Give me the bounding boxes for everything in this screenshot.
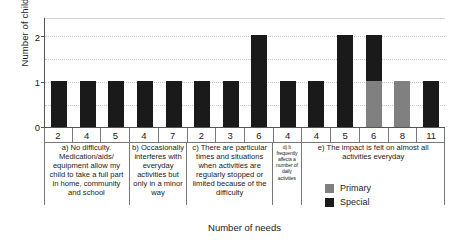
y-tick-label-0: 0: [0, 123, 40, 133]
legend-label-special: Special: [340, 197, 370, 207]
bar-group-10: [331, 18, 360, 127]
x-tick-7: 6: [245, 128, 274, 142]
x-tick-12: 8: [389, 128, 418, 142]
bar-special: [366, 35, 382, 81]
bar-chart: Number of children: [0, 0, 457, 243]
bar-special: [280, 81, 296, 127]
category-label-a: a) No difficulty. Medication/aids/ equip…: [44, 143, 130, 205]
legend-item-special: Special: [325, 197, 371, 207]
plot-area: [44, 18, 445, 128]
bar-group-4: [159, 18, 188, 127]
bar-special: [423, 81, 439, 127]
x-tick-value-row: 2 4 5 4 7 2 3 6 4 4 5 6 8 11: [44, 128, 445, 143]
bar-group-13: [417, 18, 446, 127]
bar-special: [194, 81, 210, 127]
bar-special: [108, 81, 124, 127]
legend-swatch-primary-icon: [325, 184, 334, 193]
bar-group-0: [45, 18, 74, 127]
bar-group-9: [302, 18, 331, 127]
chart-legend: Primary Special: [325, 183, 371, 211]
bar-special: [251, 35, 267, 127]
category-label-d: d) It frequently affects a number of dai…: [273, 143, 302, 205]
y-tick-label-2: 2: [0, 33, 40, 43]
x-tick-9: 4: [302, 128, 331, 142]
x-tick-0: 2: [44, 128, 73, 142]
x-axis-title: Number of needs: [44, 222, 445, 233]
x-tick-8: 4: [274, 128, 303, 142]
legend-label-primary: Primary: [340, 183, 371, 193]
y-axis-title: Number of children: [19, 0, 30, 86]
bar-group-3: [131, 18, 160, 127]
bar-special: [137, 81, 153, 127]
bar-group-5: [188, 18, 217, 127]
x-tick-10: 5: [331, 128, 360, 142]
bar-group-6: [216, 18, 245, 127]
x-tick-5: 2: [188, 128, 217, 142]
legend-swatch-special-icon: [325, 198, 334, 207]
category-label-b: b) Occasionally interferes with everyday…: [130, 143, 187, 205]
bar-special: [337, 35, 353, 127]
x-tick-4: 7: [159, 128, 188, 142]
x-tick-2: 5: [101, 128, 130, 142]
category-label-c: c) There are particular times and situat…: [187, 143, 273, 205]
bar-special: [51, 81, 67, 127]
bar-primary: [394, 81, 410, 127]
bar-series-container: [45, 18, 445, 127]
category-label-e: e) The impact is felt on almost all acti…: [302, 143, 445, 205]
bar-group-2: [102, 18, 131, 127]
category-label-row: a) No difficulty. Medication/aids/ equip…: [44, 143, 445, 205]
bar-group-1: [74, 18, 103, 127]
x-tick-6: 3: [216, 128, 245, 142]
x-tick-3: 4: [130, 128, 159, 142]
bar-group-12: [388, 18, 417, 127]
bar-group-7: [245, 18, 274, 127]
bar-special: [80, 81, 96, 127]
legend-item-primary: Primary: [325, 183, 371, 193]
y-tick-label-1: 1: [0, 78, 40, 88]
bar-special: [223, 81, 239, 127]
bar-primary: [366, 81, 382, 127]
x-tick-13: 11: [417, 128, 445, 142]
x-tick-1: 4: [73, 128, 102, 142]
bar-group-11: [359, 18, 388, 127]
bar-group-8: [274, 18, 303, 127]
x-tick-11: 6: [360, 128, 389, 142]
bar-special: [308, 81, 324, 127]
bar-special: [166, 81, 182, 127]
